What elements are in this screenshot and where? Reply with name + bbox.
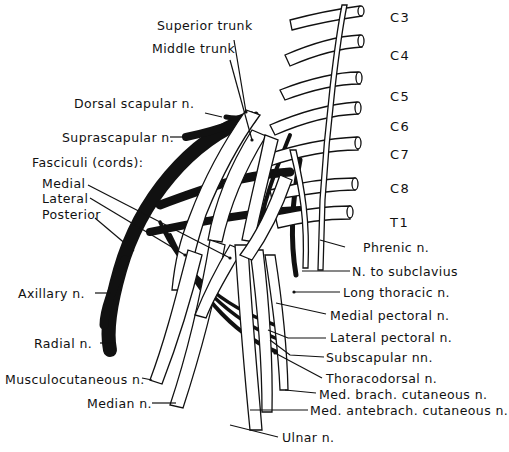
dot	[273, 351, 276, 354]
dot	[244, 110, 247, 113]
label-middle-trunk: Middle trunk	[152, 42, 235, 56]
root-t1-end	[347, 206, 353, 218]
segment-label-c6: C6	[390, 120, 410, 134]
root-c3	[290, 6, 362, 30]
segment-label-c5: C5	[390, 90, 410, 104]
segment-label-t1: T1	[390, 216, 409, 230]
segment-label-c8: C8	[390, 182, 410, 196]
root-c6-end	[355, 102, 361, 114]
root-c7	[265, 137, 358, 166]
label-dorsal-scapular: Dorsal scapular n.	[74, 97, 194, 111]
label-long-thoracic: Long thoracic n.	[343, 286, 450, 300]
label-ulnar: Ulnar n.	[282, 431, 334, 445]
label-radial: Radial n.	[34, 337, 92, 351]
dot	[292, 290, 295, 293]
segment-label-c3: C3	[390, 11, 410, 25]
label-med-brach-cutaneous: Med. brach. cutaneous n.	[319, 388, 487, 402]
root-c4-end	[358, 35, 364, 47]
root-c3-end	[358, 6, 364, 16]
lead-superior-trunk	[234, 40, 246, 112]
label-medial-cord: Medial	[42, 177, 85, 191]
segment-label-c7: C7	[390, 148, 410, 162]
label-lateral-cord: Lateral	[42, 192, 88, 206]
segment-label-c4: C4	[390, 49, 410, 63]
label-med-antebrach-cutaneous: Med. antebrach. cutaneous n.	[310, 404, 508, 418]
root-c5	[280, 72, 360, 100]
label-fasciculi: Fasciculi (cords):	[32, 156, 143, 170]
root-c7-end	[355, 137, 361, 149]
label-thoracodorsal: Thoracodorsal n.	[326, 372, 437, 386]
trunks-cords-group	[150, 110, 292, 430]
root-c4	[285, 35, 362, 66]
dot	[228, 256, 231, 259]
label-subscapular: Subscapular nn.	[326, 351, 433, 365]
label-superior-trunk: Superior trunk	[157, 19, 253, 33]
label-lateral-pectoral: Lateral pectoral n.	[330, 331, 452, 345]
lead-dorsal-scapular	[205, 113, 222, 117]
label-posterior-cord: Posterior	[42, 208, 101, 222]
label-phrenic: Phrenic n.	[363, 241, 429, 255]
label-medial-pectoral: Medial pectoral n.	[330, 309, 449, 323]
label-n-to-subclavius: N. to subclavius	[352, 265, 458, 279]
root-c8-end	[352, 178, 358, 190]
root-c6	[270, 102, 358, 135]
root-c5-end	[356, 72, 362, 84]
lead-medial-pectoral	[276, 303, 326, 314]
label-axillary: Axillary n.	[18, 287, 85, 301]
label-suprascapular: Suprascapular n.	[62, 131, 174, 145]
dot	[183, 253, 186, 256]
label-median: Median n.	[87, 397, 152, 411]
label-musculocutaneous: Musculocutaneous n.	[5, 373, 145, 387]
lead-med-brach	[285, 390, 316, 393]
dot	[250, 138, 253, 141]
